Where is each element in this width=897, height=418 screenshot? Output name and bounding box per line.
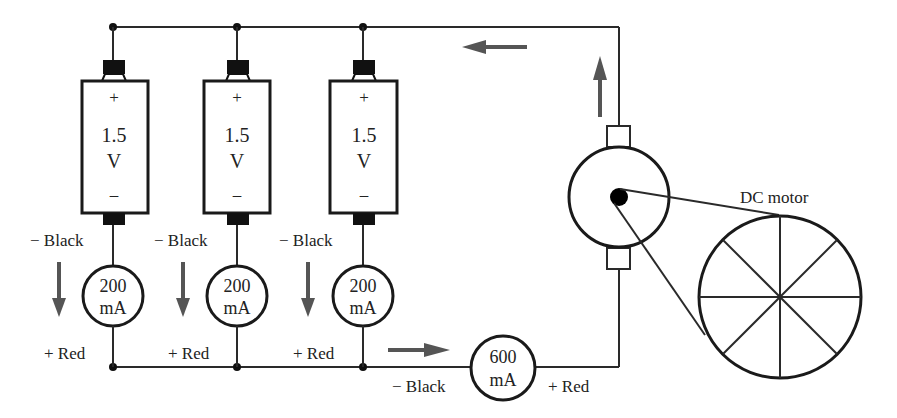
battery-unit: V: [107, 150, 122, 172]
battery-voltage: 1.5: [352, 124, 377, 146]
battery-unit: V: [357, 150, 372, 172]
ammeter-branch-1: 200 mA − Black + Red: [30, 231, 143, 367]
ammeter-unit: mA: [350, 298, 377, 318]
ammeter-unit: mA: [100, 298, 127, 318]
ammeter-unit: mA: [490, 370, 517, 390]
negative-lead-label: − Black: [30, 231, 84, 250]
ammeter-value: 200: [224, 276, 251, 296]
ammeter-branch-2: 200 mA − Black + Red: [154, 231, 267, 367]
negative-lead-label: − Black: [392, 377, 446, 396]
battery-minus-label: –: [232, 185, 242, 204]
battery-plus-label: +: [109, 88, 119, 107]
battery-plus-label: +: [232, 88, 242, 107]
battery-2: + 1.5 V –: [204, 27, 270, 266]
battery-plus-label: +: [359, 88, 369, 107]
ammeter-value: 600: [490, 347, 517, 367]
ammeter-value: 200: [350, 276, 377, 296]
positive-lead-label: + Red: [548, 377, 590, 396]
battery-3: + 1.5 V –: [330, 27, 397, 266]
battery-1: + 1.5 V –: [82, 27, 148, 266]
battery-voltage: 1.5: [225, 124, 250, 146]
circuit-diagram: + 1.5 V – + 1.5 V – + 1.5 V – 200 mA: [0, 0, 897, 418]
negative-lead-label: − Black: [279, 231, 333, 250]
top-current-arrows: [462, 40, 607, 117]
positive-lead-label: + Red: [293, 344, 335, 363]
battery-voltage: 1.5: [102, 124, 127, 146]
ammeter-value: 200: [100, 276, 127, 296]
ammeter-branch-3: 200 mA − Black + Red: [279, 231, 393, 367]
dc-motor: [569, 126, 779, 335]
ammeter-unit: mA: [224, 298, 251, 318]
negative-lead-label: − Black: [154, 231, 208, 250]
battery-minus-label: –: [109, 185, 119, 204]
dc-motor-label: DC motor: [740, 188, 809, 207]
positive-lead-label: + Red: [44, 344, 86, 363]
positive-lead-label: + Red: [168, 344, 210, 363]
motor-wheel: [699, 216, 861, 378]
battery-minus-label: –: [359, 185, 369, 204]
battery-unit: V: [230, 150, 245, 172]
